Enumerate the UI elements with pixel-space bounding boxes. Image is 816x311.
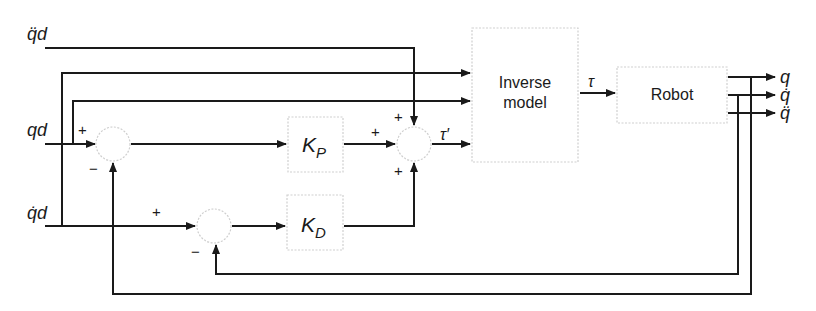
inverse-model-label-line2: model [503, 94, 547, 111]
acc-desired-wire [45, 48, 414, 125]
sum3-minus-sign: − [191, 243, 200, 260]
tau-prime-label: τ′ [440, 126, 450, 143]
sum-junction-velocity [197, 209, 231, 243]
inverse-model-label-line1: Inverse [499, 74, 552, 91]
sum3-plus-sign: + [152, 203, 161, 220]
output-q-ddot-label: q̈ [780, 103, 790, 123]
sum2-top-plus-sign: + [394, 108, 403, 125]
sum-junction-position [96, 127, 130, 161]
sum1-minus-sign: − [89, 160, 98, 177]
tau-label: τ [588, 73, 595, 90]
output-q-label: q [780, 67, 790, 87]
vel-desired-label: q̇d [27, 203, 48, 223]
kd-output-wire [344, 163, 414, 226]
sum2-bottom-plus-sign: + [394, 162, 403, 179]
block-diagram-canvas: KP KD Inverse model Robot q̈d qd q̇d τ′ … [0, 0, 816, 311]
sum-junction-torque [397, 127, 431, 161]
sum2-left-plus-sign: + [371, 123, 380, 140]
sum1-plus-sign: + [78, 121, 87, 138]
output-q-dot-label: q̇ [780, 85, 790, 105]
robot-label: Robot [651, 86, 694, 103]
acc-desired-label: q̈d [27, 24, 48, 44]
pos-desired-label: qd [27, 120, 48, 140]
